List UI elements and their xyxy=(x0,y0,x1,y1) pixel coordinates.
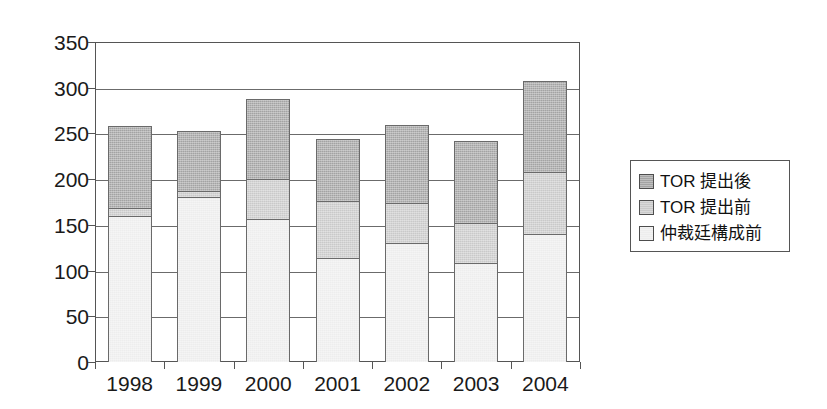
legend-swatch-icon xyxy=(639,200,654,215)
bar-segment xyxy=(316,258,360,362)
bar-group xyxy=(177,42,221,362)
bar-group xyxy=(246,42,290,362)
bar-segment xyxy=(108,208,152,215)
bar-segment xyxy=(177,131,221,191)
bar-group xyxy=(454,42,498,362)
bar-segment xyxy=(385,125,429,203)
bar-segment xyxy=(108,126,152,208)
y-tick-mark xyxy=(88,316,95,317)
y-tick-mark xyxy=(88,42,95,43)
legend: TOR 提出後TOR 提出前仲裁廷構成前 xyxy=(630,160,790,252)
bar-group xyxy=(385,42,429,362)
legend-swatch-icon xyxy=(639,174,654,189)
bar-segment xyxy=(177,197,221,362)
legend-item-label: 仲裁廷構成前 xyxy=(660,225,762,242)
bar-group xyxy=(523,42,567,362)
stacked-bar-chart: 050100150200250300350 199819992000200120… xyxy=(0,0,827,409)
legend-item-label: TOR 提出前 xyxy=(660,199,751,216)
y-tick-mark xyxy=(88,362,95,363)
x-tick-label: 2002 xyxy=(372,368,442,400)
y-axis-labels: 050100150200250300350 xyxy=(34,42,89,362)
bar-segment xyxy=(523,172,567,234)
bar-segment xyxy=(316,201,360,258)
bar-segment xyxy=(523,234,567,362)
bar-segment xyxy=(108,216,152,362)
x-tick-label: 2003 xyxy=(441,368,511,400)
x-tick-label: 2000 xyxy=(233,368,303,400)
legend-item: TOR 提出前 xyxy=(639,194,781,220)
bar-segment xyxy=(246,219,290,362)
y-tick-label: 100 xyxy=(41,260,89,281)
bar-group xyxy=(316,42,360,362)
bar-segment xyxy=(316,139,360,201)
y-tick-mark xyxy=(88,225,95,226)
y-tick-mark xyxy=(88,133,95,134)
legend-item: 仲裁廷構成前 xyxy=(639,220,781,246)
bar-segment xyxy=(385,203,429,243)
bar-group xyxy=(108,42,152,362)
y-tick-label: 0 xyxy=(41,352,89,373)
x-tick-label: 2004 xyxy=(510,368,580,400)
bar-segment xyxy=(454,223,498,263)
legend-swatch-icon xyxy=(639,226,654,241)
y-tick-label: 200 xyxy=(41,169,89,190)
bar-segment xyxy=(177,191,221,197)
y-tick-mark xyxy=(88,179,95,180)
y-tick-label: 250 xyxy=(41,123,89,144)
bars-layer xyxy=(95,42,580,362)
legend-item: TOR 提出後 xyxy=(639,168,781,194)
bar-segment xyxy=(523,81,567,172)
y-tick-label: 50 xyxy=(41,306,89,327)
y-tick-label: 300 xyxy=(41,77,89,98)
bar-segment xyxy=(454,263,498,362)
x-tick-label: 1999 xyxy=(164,368,234,400)
y-tick-label: 350 xyxy=(41,32,89,53)
x-tick-label: 1998 xyxy=(95,368,165,400)
y-tick-label: 150 xyxy=(41,214,89,235)
bar-segment xyxy=(246,99,290,179)
bar-segment xyxy=(454,141,498,223)
bar-segment xyxy=(246,179,290,219)
legend-item-label: TOR 提出後 xyxy=(660,173,751,190)
x-tick-label: 2001 xyxy=(303,368,373,400)
x-axis-labels: 1998199920002001200220032004 xyxy=(95,368,580,402)
y-tick-mark xyxy=(88,88,95,89)
bar-segment xyxy=(385,243,429,362)
y-tick-mark xyxy=(88,271,95,272)
